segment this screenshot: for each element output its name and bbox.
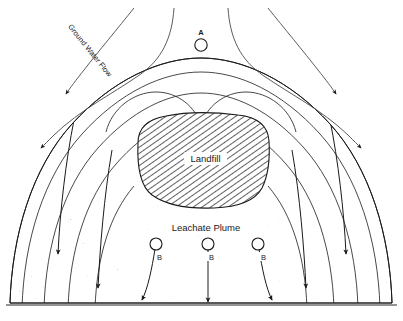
- well-b-center-label: B: [209, 253, 214, 262]
- well-a-label: A: [198, 28, 204, 37]
- well-b-left-label: B: [157, 253, 162, 262]
- well-b-right-label: B: [261, 253, 266, 262]
- diagram-canvas: Landfill Leachate Plume Ground Water Flo…: [0, 0, 403, 321]
- ground-water-flow-label-text: Ground Water Flow: [66, 22, 114, 78]
- leachate-plume-label: Leachate Plume: [168, 221, 244, 234]
- landfill-plume-diagram: Landfill Leachate Plume Ground Water Flo…: [0, 0, 403, 321]
- landfill-label-text: Landfill: [190, 153, 220, 164]
- ground-water-flow-label: Ground Water Flow: [66, 22, 114, 78]
- landfill-label: Landfill: [184, 152, 227, 165]
- well-a[interactable]: A: [195, 28, 207, 51]
- well-a-symbol[interactable]: [195, 39, 207, 51]
- leachate-plume-label-text: Leachate Plume: [172, 222, 241, 233]
